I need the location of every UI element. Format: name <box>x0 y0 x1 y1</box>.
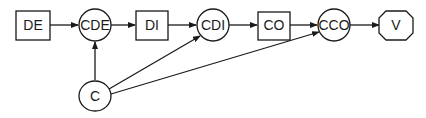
node-label: V <box>391 17 401 33</box>
node-label: CDE <box>80 17 110 33</box>
node-v: V <box>379 11 413 40</box>
node-label: C <box>90 88 100 104</box>
node-co: CO <box>258 12 290 40</box>
node-label: DI <box>145 17 159 33</box>
node-label: CO <box>264 17 285 33</box>
node-cde: CDE <box>79 9 111 41</box>
node-di: DI <box>136 11 168 40</box>
node-c: C <box>79 81 111 111</box>
flow-diagram: DE CDE DI CDI CO CCO V C <box>0 0 426 118</box>
node-label: DE <box>23 17 42 33</box>
node-cco: CCO <box>318 9 350 41</box>
node-cdi: CDI <box>197 9 229 41</box>
node-label: CCO <box>318 17 349 33</box>
node-label: CDI <box>201 17 225 33</box>
node-de: DE <box>16 11 50 40</box>
